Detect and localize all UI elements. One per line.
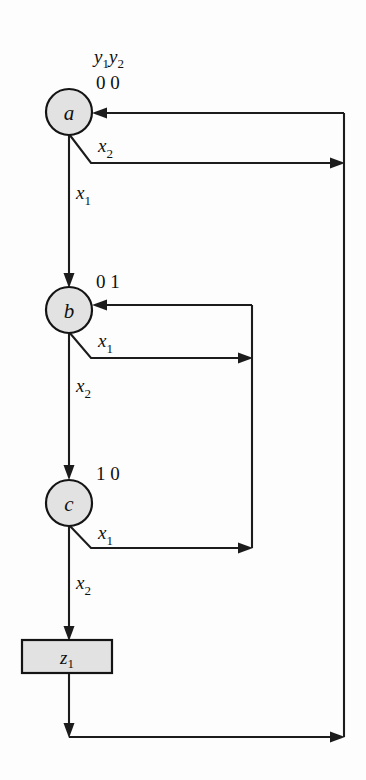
edge-label-b-x2: x2 <box>75 375 91 401</box>
edge-label-c-x2: x2 <box>75 572 91 598</box>
edge-c-x1-path <box>69 525 247 548</box>
edge-label-a-x1: x1 <box>75 182 91 208</box>
edge-label-b-x1: x1 <box>97 330 113 356</box>
arrowhead-into-return-bus <box>330 732 345 743</box>
state-transition-diagram: a b c z1 y1y2 0 0 0 1 1 0 x2 x1 x1 x2 x1 <box>0 0 366 780</box>
node-a-state-code: 0 0 <box>96 72 120 93</box>
node-c-label: c <box>64 492 74 516</box>
arrowhead-a-x2 <box>330 158 345 169</box>
edge-b-x2 <box>64 333 75 480</box>
arrowhead-into-node-a <box>92 108 107 119</box>
state-diagram-canvas: a b c z1 y1y2 0 0 0 1 1 0 x2 x1 x1 x2 x1 <box>0 0 366 780</box>
edge-b-x1 <box>69 332 253 364</box>
node-c[interactable]: c <box>46 480 92 526</box>
edge-z1-exit <box>64 673 75 738</box>
edge-label-c-x1: x1 <box>97 522 113 548</box>
state-variable-header: y1y2 <box>92 46 124 71</box>
edge-b-x1-path <box>69 332 247 358</box>
node-b-state-code: 0 1 <box>96 271 120 292</box>
arrowhead-c-x1 <box>238 543 253 554</box>
arrowhead-a-x1-into-b <box>64 273 75 288</box>
output-box-z1[interactable]: z1 <box>22 640 112 673</box>
edge-a-x1 <box>64 135 75 288</box>
edge-c-x1 <box>69 525 253 554</box>
edge-label-a-x2: x2 <box>97 135 113 161</box>
arrowhead-z1-exit <box>64 723 75 738</box>
arrowhead-into-node-b <box>92 300 107 311</box>
edge-c-x2 <box>64 526 75 641</box>
arrowhead-c-x2-into-z1 <box>64 626 75 641</box>
node-b[interactable]: b <box>46 287 92 333</box>
edge-mid-bus <box>92 300 252 549</box>
node-c-state-code: 1 0 <box>96 463 120 484</box>
arrowhead-b-x2-into-c <box>64 465 75 480</box>
node-a[interactable]: a <box>46 89 92 135</box>
arrowhead-b-x1 <box>238 353 253 364</box>
node-a-label: a <box>64 101 75 125</box>
node-b-label: b <box>64 299 75 323</box>
